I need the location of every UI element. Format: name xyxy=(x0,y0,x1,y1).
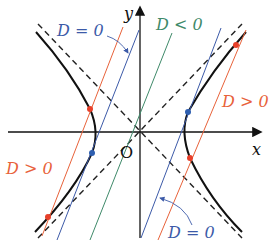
intersection-point xyxy=(87,106,93,112)
tangent-point xyxy=(185,109,191,115)
callout-arrow-bottom xyxy=(160,198,192,225)
label-d-positive-left: D > 0 xyxy=(5,159,53,178)
line-d-positive-right xyxy=(158,30,246,240)
tangent-point xyxy=(89,150,95,156)
line-d-negative xyxy=(90,33,172,240)
label-d-negative: D < 0 xyxy=(155,15,203,34)
x-axis-label: x xyxy=(252,140,261,159)
intersection-point xyxy=(233,42,239,48)
label-d-positive-right: D > 0 xyxy=(221,92,269,111)
label-d-zero-bottom: D = 0 xyxy=(167,223,215,242)
origin-label: O xyxy=(120,143,133,162)
y-axis-label: y xyxy=(123,4,134,23)
line-d-zero-right xyxy=(141,28,221,238)
hyperbola-discriminant-diagram: y x O D = 0 D < 0 D > 0 D > 0 D = 0 xyxy=(0,0,276,247)
label-d-zero-top: D = 0 xyxy=(56,21,104,40)
intersection-point xyxy=(187,155,193,161)
intersection-point xyxy=(45,214,51,220)
callout-arrow-top xyxy=(107,36,128,53)
line-d-zero-left xyxy=(57,30,139,240)
